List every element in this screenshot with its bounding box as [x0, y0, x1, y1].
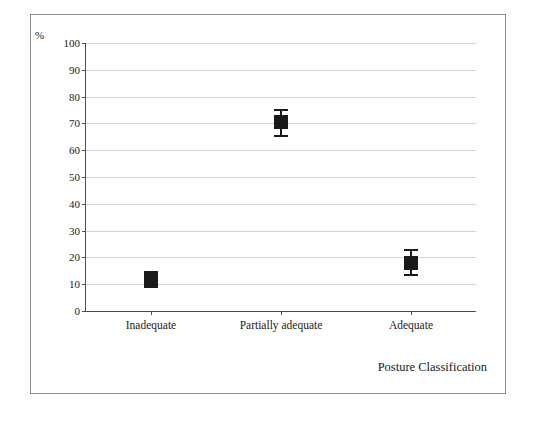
ytick-mark-100 [82, 43, 86, 44]
ytick-mark-50 [82, 177, 86, 178]
ytick-label-40: 40 [69, 198, 80, 210]
marker-inadequate [144, 272, 158, 286]
ytick-mark-60 [82, 150, 86, 151]
ytick-label-60: 60 [69, 144, 80, 156]
errorbar-cap-lower-partially-adequate [274, 135, 288, 137]
gridline-30 [86, 231, 476, 232]
ytick-mark-20 [82, 257, 86, 258]
marker-partially-adequate [274, 115, 288, 129]
errorbar-cap-upper-adequate [404, 249, 418, 251]
xtick-mark-inadequate [151, 311, 152, 315]
xtick-label-adequate: Adequate [389, 319, 433, 331]
xtick-label-partially-adequate: Partially adequate [240, 319, 323, 331]
x-axis-title: Posture Classification [378, 360, 487, 375]
gridline-40 [86, 204, 476, 205]
xtick-label-inadequate: Inadequate [126, 319, 176, 331]
ytick-mark-40 [82, 204, 86, 205]
ytick-mark-80 [82, 97, 86, 98]
gridline-100 [86, 43, 476, 44]
ytick-label-0: 0 [75, 305, 81, 317]
ytick-mark-30 [82, 231, 86, 232]
ytick-mark-90 [82, 70, 86, 71]
xtick-mark-adequate [411, 311, 412, 315]
ytick-label-20: 20 [69, 251, 80, 263]
plot-area: 100 90 80 70 60 50 40 30 20 [85, 43, 476, 312]
xtick-mark-partially-adequate [281, 311, 282, 315]
gridline-60 [86, 150, 476, 151]
gridline-50 [86, 177, 476, 178]
ytick-label-100: 100 [64, 37, 81, 49]
gridline-90 [86, 70, 476, 71]
ytick-mark-0 [82, 311, 86, 312]
ytick-label-80: 80 [69, 91, 80, 103]
y-axis-unit-label: % [35, 29, 44, 41]
ytick-label-70: 70 [69, 117, 80, 129]
ytick-label-50: 50 [69, 171, 80, 183]
ytick-label-10: 10 [69, 278, 80, 290]
ytick-mark-70 [82, 123, 86, 124]
ytick-mark-10 [82, 284, 86, 285]
errorbar-cap-upper-partially-adequate [274, 109, 288, 111]
marker-adequate [404, 256, 418, 270]
chart-plot-wrapper: % 100 90 80 70 60 50 40 [31, 15, 505, 393]
ytick-label-30: 30 [69, 225, 80, 237]
errorbar-cap-lower-adequate [404, 274, 418, 276]
ytick-label-90: 90 [69, 64, 80, 76]
chart-frame: % 100 90 80 70 60 50 40 [30, 14, 506, 394]
errorbar-cap-lower-inadequate [144, 286, 158, 288]
gridline-80 [86, 97, 476, 98]
